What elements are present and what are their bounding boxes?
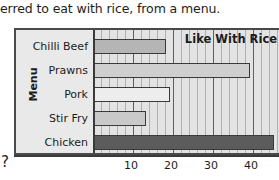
bar-pork	[94, 87, 170, 102]
bar-prawns	[94, 63, 250, 78]
gridline-minor	[277, 30, 278, 153]
bar-stir-fry	[94, 111, 146, 126]
x-tick-label-20: 20	[164, 159, 178, 172]
bar-chart: Menu Like With Rice Chilli BeefPrawnsPor…	[14, 28, 279, 155]
category-label-stir-fry: Stir Fry	[49, 112, 88, 125]
category-label-pork: Pork	[64, 88, 88, 101]
category-label-prawns: Prawns	[49, 64, 88, 77]
value-axis-line	[93, 30, 95, 153]
category-label-chicken: Chicken	[45, 136, 88, 149]
legend-label: Like With Rice	[185, 32, 277, 46]
x-axis-line	[14, 155, 279, 157]
question-text: erred to eat with rice, from a menu.	[0, 1, 220, 16]
category-label-chilli-beef: Chilli Beef	[33, 40, 88, 53]
x-axis: 10203040	[14, 155, 279, 180]
bar-chicken	[94, 135, 274, 150]
question-mark-text: ?	[1, 155, 9, 170]
x-tick-label-30: 30	[204, 159, 218, 172]
y-axis-title: Menu	[27, 59, 40, 111]
x-tick-label-10: 10	[124, 159, 138, 172]
x-tick-label-40: 40	[244, 159, 258, 172]
bar-chilli-beef	[94, 39, 166, 54]
